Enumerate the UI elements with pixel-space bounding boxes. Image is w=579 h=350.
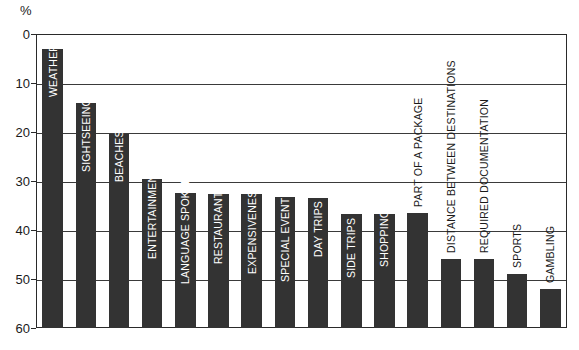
y-axis-tick-label: 40 (0, 224, 30, 237)
gridline (37, 182, 566, 183)
gridline (37, 84, 566, 85)
y-axis-unit-label: % (20, 4, 32, 17)
y-axis-tick-label: 60 (0, 322, 30, 335)
gridline (37, 231, 566, 232)
y-axis-tick-label: 30 (0, 175, 30, 188)
gridline (37, 280, 566, 281)
y-axis-tick-label: 50 (0, 273, 30, 286)
gridline (37, 133, 566, 134)
y-axis-tick-mark (31, 328, 36, 329)
y-axis-tick-label: 20 (0, 126, 30, 139)
y-axis-tick-label: 0 (0, 28, 30, 41)
y-axis-tick-label: 10 (0, 77, 30, 90)
plot-area (36, 34, 567, 328)
bar-chart: % 6050403020100 WEATHERSIGHTSEEINGBEACHE… (0, 0, 579, 350)
